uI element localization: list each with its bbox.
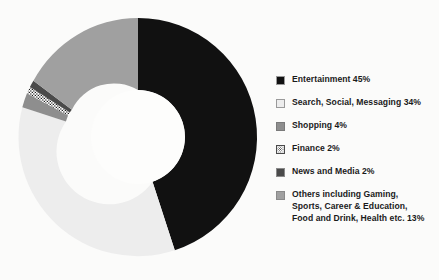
finance-swatch-icon xyxy=(276,145,285,154)
legend-item-search-social-messaging[interactable]: Search, Social, Messaging 34% xyxy=(276,97,439,109)
donut-chart xyxy=(0,0,276,280)
entertainment-swatch-icon xyxy=(276,76,285,85)
legend-item-label-multiline: Others including Gaming, Sports, Career … xyxy=(292,189,424,224)
news-and-media-swatch-icon xyxy=(276,168,285,177)
legend-item-label: News and Media 2% xyxy=(292,166,375,178)
legend-item-label: Shopping 4% xyxy=(292,120,347,132)
legend-item-label: Finance 2% xyxy=(292,143,340,155)
legend-item-news-and-media[interactable]: News and Media 2% xyxy=(276,166,439,178)
legend-item-label-line: Others including Gaming, xyxy=(292,189,424,201)
legend-item-shopping[interactable]: Shopping 4% xyxy=(276,120,439,132)
legend-item-others[interactable]: Others including Gaming, Sports, Career … xyxy=(276,189,439,224)
legend-item-label-line: Food and Drink, Health etc. 13% xyxy=(292,213,424,225)
chart-page: Entertainment 45% Search, Social, Messag… xyxy=(0,0,439,280)
shopping-swatch-icon xyxy=(276,122,285,131)
chart-legend: Entertainment 45% Search, Social, Messag… xyxy=(276,74,439,224)
others-swatch-icon xyxy=(276,191,285,200)
donut-center-hole xyxy=(91,90,185,184)
search-social-messaging-swatch-icon xyxy=(276,99,285,108)
donut-chart-svg xyxy=(0,0,276,280)
legend-item-label: Search, Social, Messaging 34% xyxy=(292,97,421,109)
legend-item-label: Entertainment 45% xyxy=(292,74,370,86)
legend-item-label-line: Sports, Career & Education, xyxy=(292,201,424,213)
legend-item-entertainment[interactable]: Entertainment 45% xyxy=(276,74,439,86)
legend-item-finance[interactable]: Finance 2% xyxy=(276,143,439,155)
